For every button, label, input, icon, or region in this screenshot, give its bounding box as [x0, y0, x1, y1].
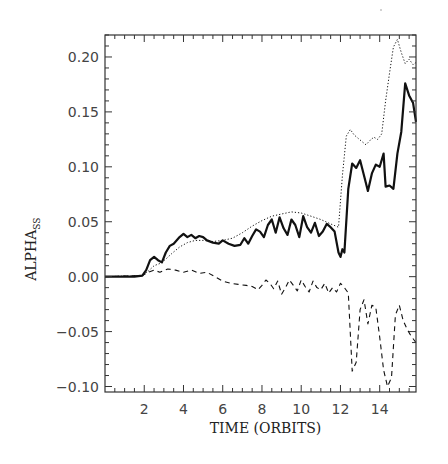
y-axis-title-main: ALPHA [23, 229, 39, 282]
x-tick-label: 12 [332, 401, 350, 417]
plot-frame [105, 35, 416, 392]
y-tick-labels: −0.10−0.050.000.050.100.150.20 [56, 49, 99, 395]
series-dotted-line [105, 39, 416, 276]
y-tick-label: 0.00 [68, 269, 99, 285]
y-tick-label: 0.15 [68, 104, 99, 120]
series-solid-line [105, 83, 416, 276]
y-axis-title: ALPHASS [23, 218, 42, 282]
stray-dot [380, 9, 382, 11]
x-tick-label: 14 [371, 401, 389, 417]
x-tick-label: 6 [218, 401, 227, 417]
y-tick-label: 0.10 [68, 159, 99, 175]
x-tick-label: 10 [292, 401, 310, 417]
x-tick-labels: 2468101214 [140, 401, 389, 417]
y-tick-label: −0.10 [56, 379, 99, 395]
axis-ticks [105, 35, 416, 392]
y-tick-label: 0.05 [68, 214, 99, 230]
svg-text:ALPHASS: ALPHASS [23, 218, 42, 282]
series-dashed-line [105, 269, 416, 387]
y-tick-label: −0.05 [56, 324, 99, 340]
data-series [105, 39, 416, 386]
x-tick-label: 8 [258, 401, 267, 417]
x-axis-title: TIME (ORBITS) [210, 420, 322, 436]
x-tick-label: 4 [179, 401, 188, 417]
y-tick-label: 0.20 [68, 49, 99, 65]
x-tick-label: 2 [140, 401, 149, 417]
y-axis-title-subscript: SS [32, 218, 42, 230]
line-chart: 2468101214 −0.10−0.050.000.050.100.150.2… [0, 0, 448, 464]
